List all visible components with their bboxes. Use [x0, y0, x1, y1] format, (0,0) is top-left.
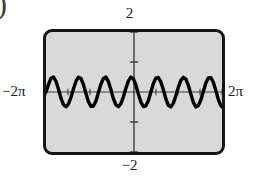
plot-canvas — [46, 32, 222, 152]
x-max-label: 2π — [228, 84, 243, 99]
y-max-label: 2 — [0, 6, 259, 21]
y-min-label: −2 — [0, 158, 259, 173]
graphing-calculator-figure: ) 2 −2π 2π −2 — [0, 0, 259, 179]
viewing-window-frame — [43, 29, 225, 155]
x-min-label: −2π — [2, 84, 26, 99]
